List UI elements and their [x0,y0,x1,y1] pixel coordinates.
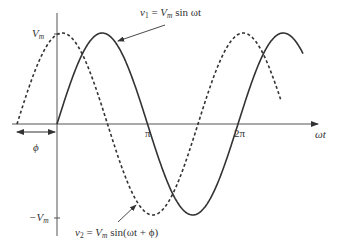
v2-leader-arrow [118,205,136,222]
v1-leader-arrow [118,25,165,41]
neg-vm-label: −Vm [29,211,49,225]
phase-shift-diagram: ϕ Vm −Vm π 2π ωt v1 = Vm sin ωt v2 = Vm … [0,0,337,250]
x-tick-2pi: 2π [234,127,246,139]
x-tick-pi: π [145,127,151,139]
v1-label: v1 = Vm sin ωt [140,6,201,20]
x-axis-label: ωt [315,128,327,140]
vm-label: Vm [32,27,45,41]
v2-label: v2 = Vm sin(ωt + ϕ) [75,226,159,240]
phase-label: ϕ [33,141,39,153]
